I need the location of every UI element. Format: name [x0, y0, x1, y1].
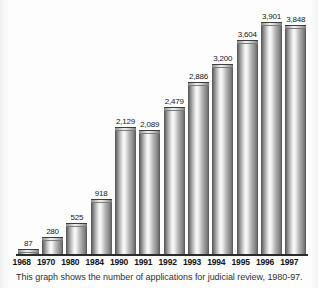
bar-value-label: 2,089: [140, 120, 159, 129]
bar-body: [164, 107, 185, 255]
bar-value-label: 2,129: [116, 117, 135, 126]
bar-body: [188, 82, 209, 254]
bar-body: [261, 22, 282, 254]
bar-1970: 280: [42, 237, 63, 254]
bar-1991: 2,089: [139, 130, 160, 254]
bar-body: [115, 127, 136, 254]
bar-value-label: 3,200: [213, 54, 232, 63]
page-left-margin: [0, 0, 9, 288]
bar-value-label: 3,604: [238, 30, 257, 39]
bar-value-label: 918: [95, 189, 108, 198]
bar-1996: 3,901: [261, 22, 282, 254]
chart-caption: This graph shows the number of applicati…: [16, 272, 312, 283]
bar-value-label: 3,848: [286, 15, 305, 24]
bar-body: [91, 199, 112, 254]
page-right-margin: [312, 0, 318, 288]
bar-1995: 3,604: [237, 40, 258, 254]
bar-1990: 2,129: [115, 127, 136, 254]
bar-chart-plot-area: 872805259182,1292,0892,4792,8863,2003,60…: [16, 4, 308, 254]
bar-1997: 3,848: [285, 25, 306, 254]
bar-body: [237, 40, 258, 254]
bar-body: [42, 237, 63, 254]
bar-value-label: 2,479: [165, 97, 184, 106]
bar-body: [212, 64, 233, 254]
bar-1984: 918: [91, 199, 112, 254]
bar-body: [66, 223, 87, 254]
bar-1992: 2,479: [164, 107, 185, 255]
bar-body: [285, 25, 306, 254]
chart-figure: 872805259182,1292,0892,4792,8863,2003,60…: [0, 0, 318, 288]
x-axis-tick-labels: 1968197019801984199019911992199319941995…: [16, 257, 308, 271]
x-axis-baseline: [16, 254, 308, 256]
bar-value-label: 87: [24, 239, 33, 248]
bar-1980: 525: [66, 223, 87, 254]
bar-value-label: 525: [70, 213, 83, 222]
bar-value-label: 3,901: [262, 12, 281, 21]
x-tick-1997: 1997: [272, 257, 306, 267]
bar-1993: 2,886: [188, 82, 209, 254]
bar-body: [139, 130, 160, 254]
bar-1994: 3,200: [212, 64, 233, 254]
bar-value-label: 280: [46, 227, 59, 236]
bar-value-label: 2,886: [189, 72, 208, 81]
